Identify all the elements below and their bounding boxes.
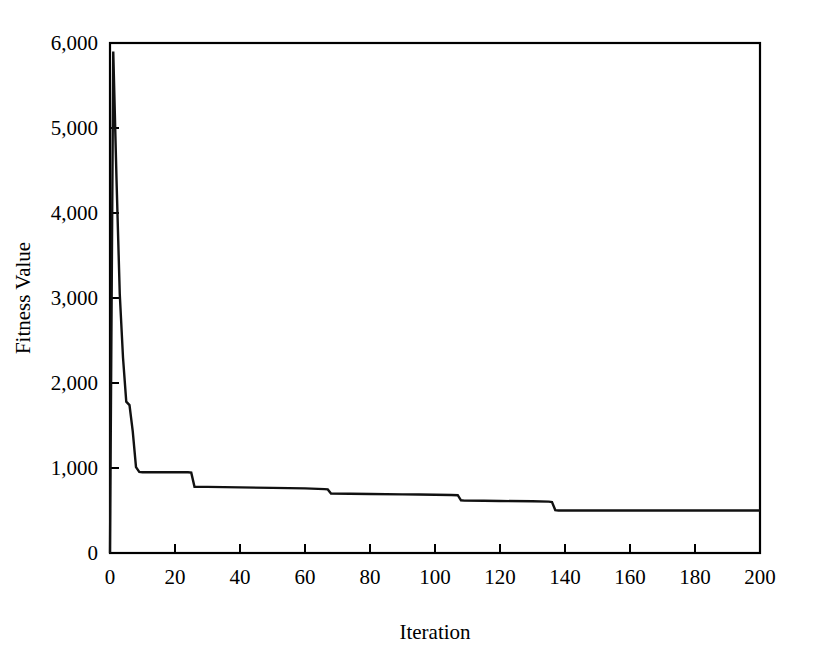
data-series-group — [110, 52, 760, 554]
y-tick-label-0: 0 — [88, 541, 99, 565]
series-line-0 — [110, 52, 760, 554]
y-axis-tick-labels: 01,0002,0003,0004,0005,0006,000 — [51, 31, 98, 565]
y-tick-label-2000: 2,000 — [51, 371, 98, 395]
y-tick-label-6000: 6,000 — [51, 31, 98, 55]
x-axis-ticks — [110, 544, 760, 553]
x-tick-label-140: 140 — [549, 565, 581, 589]
y-tick-label-5000: 5,000 — [51, 116, 98, 140]
x-tick-label-120: 120 — [484, 565, 516, 589]
fitness-convergence-chart: 020406080100120140160180200 01,0002,0003… — [0, 0, 813, 660]
x-tick-label-20: 20 — [165, 565, 186, 589]
x-tick-label-80: 80 — [360, 565, 381, 589]
x-tick-label-0: 0 — [105, 565, 116, 589]
figure-container: 020406080100120140160180200 01,0002,0003… — [0, 0, 813, 660]
y-axis-title: Fitness Value — [11, 242, 35, 354]
x-tick-label-180: 180 — [679, 565, 711, 589]
y-tick-label-4000: 4,000 — [51, 201, 98, 225]
x-tick-label-60: 60 — [295, 565, 316, 589]
plot-frame — [110, 43, 760, 553]
y-tick-label-1000: 1,000 — [51, 456, 98, 480]
x-axis-title: Iteration — [399, 620, 471, 644]
y-tick-label-3000: 3,000 — [51, 286, 98, 310]
x-tick-label-160: 160 — [614, 565, 646, 589]
x-tick-label-40: 40 — [230, 565, 251, 589]
x-tick-label-100: 100 — [419, 565, 451, 589]
x-tick-label-200: 200 — [744, 565, 776, 589]
x-axis-tick-labels: 020406080100120140160180200 — [105, 565, 776, 589]
